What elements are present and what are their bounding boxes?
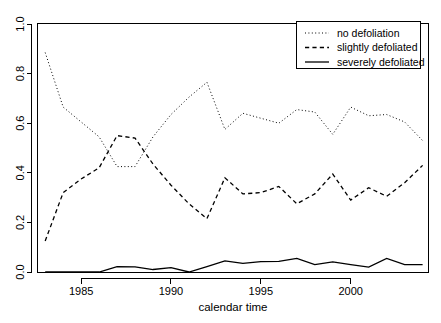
chart-canvas: 0.00.20.40.60.81.0 1985199019952000 cale…	[0, 0, 441, 323]
y-tick-label: 0.8	[14, 66, 26, 81]
y-tick-label: 0.2	[14, 215, 26, 230]
x-tick-label: 2000	[338, 285, 362, 297]
y-tick-label: 1.0	[14, 16, 26, 31]
y-tick-label: 0.4	[14, 165, 26, 180]
legend-label-no-defoliation: no defoliation	[337, 27, 400, 39]
chart-legend: no defoliationslightly defoliatedseverel…	[297, 22, 425, 69]
defoliation-time-series-chart: 0.00.20.40.60.81.0 1985199019952000 cale…	[0, 0, 441, 323]
x-tick-label: 1985	[69, 285, 93, 297]
legend-label-severely-defoliated: severely defoliated	[337, 56, 425, 68]
y-tick-label: 0.6	[14, 116, 26, 131]
y-tick-label: 0.0	[14, 264, 26, 279]
x-axis-title: calendar time	[198, 301, 267, 313]
x-tick-label: 1990	[159, 285, 183, 297]
x-tick-label: 1995	[249, 285, 273, 297]
legend-label-slightly-defoliated: slightly defoliated	[337, 41, 418, 53]
